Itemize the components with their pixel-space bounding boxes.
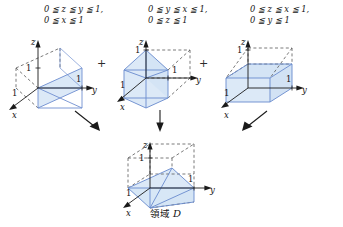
svg-text:x: x	[120, 102, 125, 112]
figure-canvas: 1 1 1 z y x 0 ≦ z ≦ y ≦ 1, 0 ≦ x ≦ 1 +	[0, 0, 343, 227]
panel-3-condition: 0 ≦ z ≦ x ≦ 1, 0 ≦ y ≦ 1	[250, 4, 309, 25]
arrow-middle	[152, 108, 168, 134]
svg-text:1: 1	[120, 80, 125, 90]
svg-text:y: y	[195, 75, 201, 85]
panel-2-cube: 1 1 1 z y x	[104, 26, 204, 110]
svg-text:1: 1	[172, 65, 177, 75]
panel-2-condition-line2: 0 ≦ z ≦ 1	[148, 15, 207, 26]
panel-3-cube: 1 1 1 z y x	[206, 26, 316, 110]
svg-text:1: 1	[286, 74, 291, 84]
svg-text:y: y	[209, 185, 215, 195]
svg-text:z: z	[240, 37, 246, 47]
panel-1-cube: 1 1 1 z y x	[0, 26, 100, 110]
svg-text:y: y	[301, 85, 307, 95]
panel-1-condition-line1: 0 ≦ z ≦ y ≦ 1,	[44, 4, 103, 15]
svg-text:x: x	[12, 110, 17, 120]
svg-text:1: 1	[12, 88, 17, 98]
svg-text:1: 1	[26, 63, 31, 73]
panel-3-condition-line2: 0 ≦ y ≦ 1	[250, 15, 309, 26]
svg-text:1: 1	[224, 88, 229, 98]
result-caption: 領域 D	[150, 206, 181, 220]
svg-text:z: z	[138, 37, 144, 47]
result-caption-word: 領域	[150, 208, 170, 219]
svg-text:1: 1	[126, 188, 131, 198]
svg-text:z: z	[30, 37, 36, 47]
svg-text:1: 1	[188, 174, 193, 184]
panel-3-condition-line1: 0 ≦ z ≦ x ≦ 1,	[250, 4, 309, 15]
svg-text:x: x	[126, 208, 131, 218]
arrow-right	[236, 108, 270, 134]
panel-2-condition-line1: 0 ≦ y ≦ x ≦ 1,	[148, 4, 207, 15]
svg-text:1: 1	[76, 74, 81, 84]
panel-1-condition-line2: 0 ≦ x ≦ 1	[44, 15, 103, 26]
arrow-left	[72, 108, 106, 134]
svg-text:y: y	[91, 85, 97, 95]
svg-text:z: z	[142, 140, 148, 150]
panel-result-cube: 1 1 1 z y x	[112, 140, 232, 215]
panel-2-condition: 0 ≦ y ≦ x ≦ 1, 0 ≦ z ≦ 1	[148, 4, 207, 25]
result-caption-symbol: D	[173, 208, 181, 219]
svg-text:x: x	[224, 110, 229, 120]
svg-text:1: 1	[139, 153, 144, 163]
panel-1-condition: 0 ≦ z ≦ y ≦ 1, 0 ≦ x ≦ 1	[44, 4, 103, 25]
